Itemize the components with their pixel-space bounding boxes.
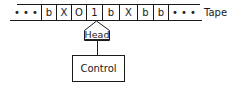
- tape-cell: b: [46, 7, 52, 18]
- tape-cell: b: [142, 7, 148, 18]
- tape-cell: b: [158, 7, 164, 18]
- control: Control: [73, 56, 125, 82]
- control-label: Control: [80, 63, 116, 74]
- tape-right-ellipsis: • • •: [172, 7, 196, 18]
- tape-left-ellipsis: • • •: [14, 7, 38, 18]
- tape-cell: X: [61, 7, 68, 18]
- tape-cell-under-head: 1: [91, 7, 97, 18]
- tape: • • • b X O 1 b X b b • • • Tape: [10, 5, 227, 21]
- head-label: Head: [85, 29, 110, 40]
- tape-cell: b: [108, 7, 114, 18]
- tape-cell: O: [75, 7, 83, 18]
- tape-label: Tape: [203, 7, 227, 18]
- tape-cell: X: [125, 7, 132, 18]
- turing-machine-diagram: • • • b X O 1 b X b b • • • Tape Head Co…: [0, 0, 233, 88]
- head: Head: [85, 21, 110, 55]
